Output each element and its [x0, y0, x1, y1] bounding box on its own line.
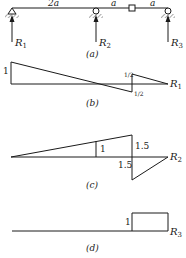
reaction-label: R3: [170, 37, 183, 50]
value-label: 1/2: [134, 90, 144, 97]
end-label: R1: [169, 78, 182, 91]
end-label: R3: [169, 226, 182, 239]
caption-c: (c): [86, 180, 99, 190]
value-label: 1.5: [135, 141, 150, 151]
influence-line-diagram: 2a a a R1 R2 R3 (a) 1 1/2 1/2 R1 (b) 1 1…: [0, 0, 186, 258]
caption-b: (b): [86, 98, 99, 108]
roller-support-icon: [93, 8, 99, 14]
influence-line-r3: 1 R3 (d): [12, 213, 182, 253]
span-label: a: [150, 0, 155, 8]
reaction-label: R1: [14, 37, 27, 50]
influence-line-r1: 1 1/2 1/2 R1 (b): [3, 62, 182, 108]
influence-curve: [11, 62, 168, 92]
caption-d: (d): [86, 243, 99, 253]
beam-diagram: 2a a a R1 R2 R3 (a): [5, 0, 183, 59]
influence-curve: [132, 213, 168, 231]
end-label: R2: [169, 151, 182, 164]
value-label: 1: [100, 144, 106, 154]
reaction-arrow-icon: [94, 15, 99, 42]
value-label: 1: [3, 66, 9, 76]
value-label: 1: [125, 217, 131, 227]
span-label: a: [111, 0, 116, 8]
reaction-label: R2: [98, 37, 111, 50]
influence-line-r2: 1 1.5 1.5 R2 (c): [11, 135, 182, 190]
roller-support-icon: [165, 8, 171, 14]
hinge-icon: [129, 5, 135, 11]
reaction-arrow-icon: [166, 15, 171, 42]
pin-support-icon: [8, 8, 16, 14]
reaction-arrow-icon: [10, 15, 15, 42]
span-label: 2a: [47, 0, 59, 8]
value-label: 1/2: [124, 71, 134, 78]
value-label: 1.5: [118, 160, 133, 170]
caption-a: (a): [86, 49, 99, 59]
